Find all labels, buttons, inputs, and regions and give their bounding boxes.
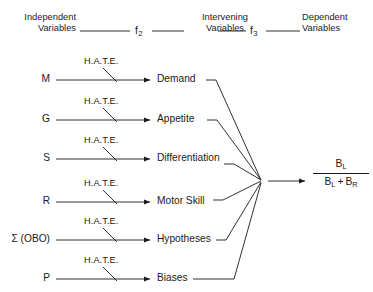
- intervening-variable-5: Hypotheses: [157, 233, 211, 245]
- column-header-intervening-line1: Intervening: [186, 12, 264, 23]
- fan-line-5: [216, 182, 261, 240]
- diagram-canvas: Independent Variables Intervening Variab…: [0, 0, 373, 292]
- independent-variable-6: P: [0, 272, 50, 284]
- column-header-dependent-line1: Dependent: [302, 12, 372, 23]
- fan-line-1: [206, 80, 261, 180]
- fraction-denominator: BL+BR: [310, 175, 372, 189]
- fan-line-2: [207, 120, 261, 180]
- column-header-dependent: Dependent Variables: [302, 12, 372, 34]
- operator-label-6: H.A.T.E.: [84, 255, 119, 266]
- independent-variable-4: R: [0, 195, 50, 207]
- dependent-variable-expression: BL BL+BR: [310, 158, 372, 190]
- intervening-variable-4: Motor Skill: [157, 195, 205, 207]
- intervening-variable-1: Demand: [157, 73, 196, 85]
- operator-label-1: H.A.T.E.: [84, 56, 119, 67]
- function-label-f3-subscript: 3: [253, 29, 257, 38]
- row-tick-6: [103, 267, 117, 281]
- intervening-variable-6: Biases: [157, 272, 188, 284]
- diagram-line-layer: [0, 0, 373, 292]
- operator-label-3: H.A.T.E.: [84, 135, 119, 146]
- intervening-variable-2: Appetite: [157, 113, 194, 125]
- function-label-f3: f3: [250, 24, 257, 39]
- function-label-f2-subscript: 2: [138, 29, 142, 38]
- column-header-dependent-line2: Variables: [302, 23, 372, 34]
- operator-label-5: H.A.T.E.: [84, 216, 119, 227]
- column-header-independent: Independent Variables: [2, 12, 76, 34]
- fraction-numerator: BL: [310, 158, 372, 172]
- independent-variable-5: Σ (OBO): [0, 233, 50, 245]
- fraction-denominator-right-subscript: R: [352, 181, 357, 190]
- fan-line-3: [224, 164, 261, 180]
- intervening-variable-3: Differentiation: [157, 152, 220, 164]
- fraction-bar: [313, 173, 369, 174]
- independent-variable-2: G: [0, 113, 50, 125]
- fraction-denominator-operator: +: [335, 176, 345, 187]
- function-label-f2: f2: [135, 24, 142, 39]
- row-tick-5: [103, 228, 117, 242]
- independent-variable-3: S: [0, 152, 50, 164]
- row-tick-4: [103, 190, 117, 204]
- fraction-numerator-subscript: L: [342, 162, 346, 171]
- row-tick-1: [103, 68, 117, 82]
- row-tick-3: [103, 147, 117, 161]
- row-tick-2: [103, 108, 117, 122]
- fan-line-4: [213, 181, 261, 200]
- operator-label-4: H.A.T.E.: [84, 178, 119, 189]
- column-header-independent-line2: Variables: [2, 23, 76, 34]
- independent-variable-1: M: [0, 73, 50, 85]
- operator-label-2: H.A.T.E.: [84, 96, 119, 107]
- column-header-independent-line1: Independent: [2, 12, 76, 23]
